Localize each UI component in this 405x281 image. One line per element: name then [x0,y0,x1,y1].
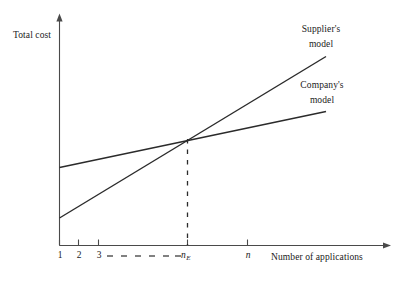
x-axis [60,242,392,248]
y-axis-arrowhead [56,14,62,22]
x-tick-label-ne-subscript: E [186,254,191,262]
x-axis-ticks [60,240,248,246]
annotation-suppliers-line1: Supplier's [302,24,341,34]
x-tick-label-2: 2 [73,250,85,260]
x-tick-label-3: 3 [93,250,105,260]
y-axis-label: Total cost [13,29,51,42]
annotation-companys-line1: Company's [300,80,343,90]
x-tick-label-1: 1 [54,250,66,260]
annotation-suppliers-line2: model [309,39,333,49]
annotation-companys-model: Company's model [283,78,361,107]
annotation-suppliers-model: Supplier's model [282,22,360,51]
x-tick-label-n: n [242,250,254,260]
chart-figure: Total cost Number of applications Suppli… [0,0,405,281]
x-axis-arrowhead [383,242,391,248]
x-tick-label-ne: nE [181,250,199,262]
annotation-companys-line2: model [310,95,334,105]
y-axis [56,14,62,246]
x-axis-label: Number of applications [271,251,363,264]
series-line-companys-model [60,112,327,168]
